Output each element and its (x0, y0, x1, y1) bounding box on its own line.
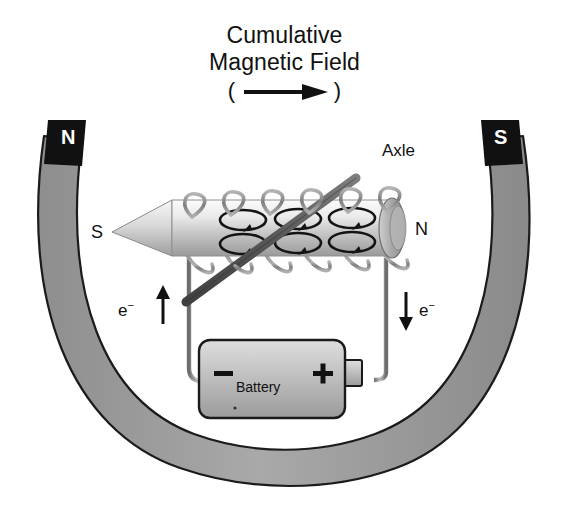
wire-right (374, 258, 386, 380)
coil-turn-bot-1 (196, 264, 213, 273)
electron-label-right: e− (419, 299, 435, 321)
battery (199, 340, 362, 418)
coil-turn-bot-4 (313, 262, 330, 271)
coil-turn-bot-6 (391, 260, 408, 269)
solenoid-south-pole-label: S (91, 222, 103, 243)
horseshoe-magnet (38, 136, 529, 486)
battery-label: Battery (236, 379, 280, 395)
diagram-svg (0, 0, 569, 513)
coil-turn-bot-3 (274, 263, 291, 272)
battery-positive-symbol-v (321, 364, 326, 384)
north-pole-label: N (61, 126, 75, 149)
electron-label-left: e− (118, 299, 134, 321)
axle-label: Axle (382, 141, 415, 161)
coil-turn-bot-5 (352, 261, 369, 270)
battery-negative-symbol (214, 371, 233, 376)
core-end-cap-inner (390, 206, 406, 250)
magnet-band (38, 136, 529, 486)
figure-canvas: Cumulative Magnetic Field ( ) (0, 0, 569, 513)
arrow-down-icon (399, 292, 413, 331)
core-cone-tip (112, 200, 172, 256)
battery-dot (233, 406, 236, 409)
solenoid-north-pole-label: N (415, 219, 428, 240)
electron-left-charge: − (127, 299, 133, 311)
south-pole-label: S (494, 126, 507, 149)
electron-right-charge: − (428, 299, 434, 311)
arrow-up-icon (156, 285, 170, 324)
